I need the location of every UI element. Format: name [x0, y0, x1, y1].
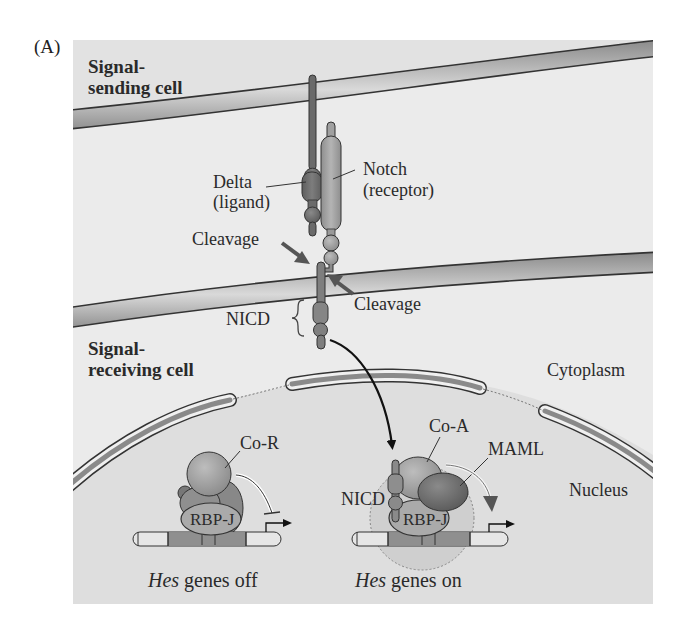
sending-cell-label-line1: Signal-	[88, 56, 145, 77]
nucleus-label: Nucleus	[569, 480, 628, 500]
caption-off-gene: Hes	[147, 569, 179, 591]
caption-on-state: genes on	[386, 569, 462, 592]
delta-label: Delta	[213, 172, 252, 192]
maml-label: MAML	[488, 439, 544, 459]
cytoplasm-label: Cytoplasm	[547, 360, 625, 380]
caption-off-state: genes off	[179, 569, 258, 592]
receiving-cell-label-line2: receiving cell	[88, 359, 194, 380]
caption-on-gene: Hes	[354, 569, 386, 591]
nicd-label: NICD	[226, 309, 270, 329]
rbpj-on-label: RBP-J	[403, 510, 448, 529]
notch-signaling-diagram: (A)	[0, 0, 693, 632]
nicd-nuclear-label: NICD	[341, 489, 385, 509]
rbpj-off-label: RBP-J	[190, 510, 235, 529]
cleavage-label-2: Cleavage	[354, 294, 421, 314]
notch-label: Notch	[363, 159, 407, 179]
caption-genes-on: Hes genes on	[354, 569, 462, 592]
receiving-cell-label-line1: Signal-	[88, 338, 145, 359]
sending-cell-label-line2: sending cell	[88, 77, 182, 98]
caption-genes-off: Hes genes off	[147, 569, 258, 592]
co-r-label: Co-R	[240, 433, 279, 453]
delta-role-label: (ligand)	[213, 192, 270, 213]
panel-label: (A)	[34, 36, 60, 58]
cleavage-label-1: Cleavage	[192, 229, 259, 249]
notch-role-label: (receptor)	[363, 180, 434, 201]
maml	[418, 473, 468, 511]
co-a-label: Co-A	[429, 416, 469, 436]
